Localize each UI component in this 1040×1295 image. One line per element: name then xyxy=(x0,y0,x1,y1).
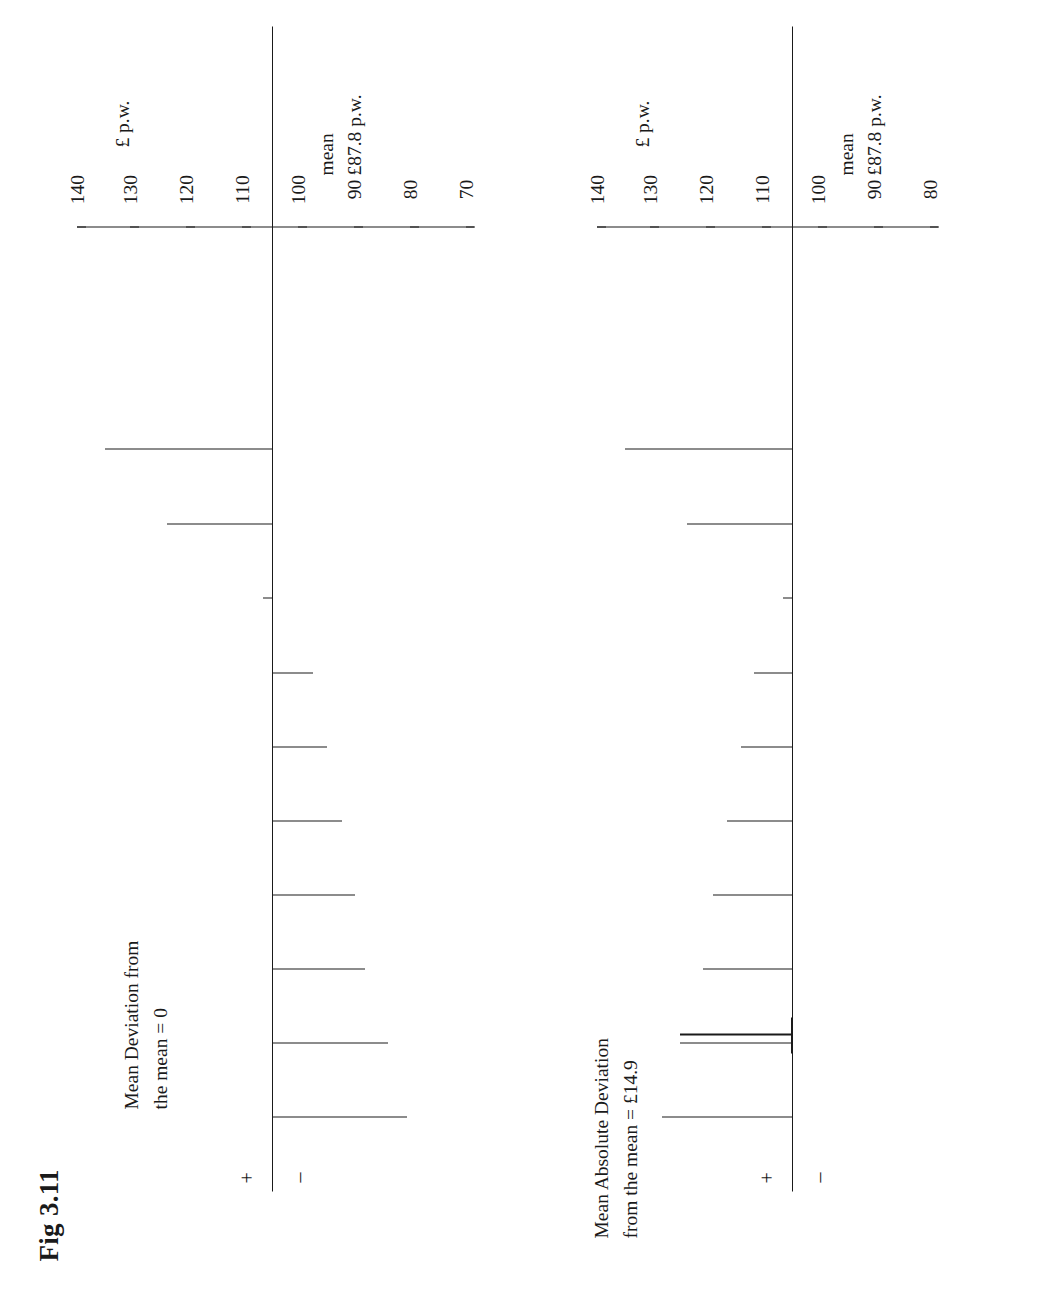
chart-mean-deviation-spike-neg-6 xyxy=(273,746,327,747)
chart-mean-absolute-deviation-spike-1 xyxy=(662,1116,793,1117)
chart-mean-deviation-tick-110 xyxy=(242,226,251,227)
chart-mean-absolute-deviation-caption-line1: Mean Absolute Deviation xyxy=(587,1038,616,1238)
chart-mean-absolute-deviation-spike-7 xyxy=(754,672,793,673)
chart-mean-absolute-deviation-axis-title: £ p.w. xyxy=(633,100,653,147)
chart-mean-deviation-ticklabel-130: 130 xyxy=(121,167,141,211)
chart-mean-absolute-deviation-tick-130 xyxy=(650,226,659,227)
chart-mean-deviation-ticklabel-120: 120 xyxy=(177,167,197,211)
chart-mean-deviation-spike-neg-1 xyxy=(273,1116,407,1117)
chart-mean-absolute-deviation-tick-120 xyxy=(706,226,715,227)
mad-indicator-stem xyxy=(680,1033,792,1035)
chart-mean-deviation-caption-line2: the mean = 0 xyxy=(146,1008,175,1109)
chart-mean-absolute-deviation-ticklabel-80: 80 xyxy=(921,167,941,211)
chart-mean-absolute-deviation-ticklabel-120: 120 xyxy=(697,167,717,211)
chart-mean-absolute-deviation-ticklabel-100: 100 xyxy=(809,167,829,211)
chart-mean-deviation-spike-neg-7 xyxy=(273,672,313,673)
chart-mean-deviation-axis-title: £ p.w. xyxy=(113,100,133,147)
chart-mean-deviation-mean-annotation-line1: mean xyxy=(313,94,341,175)
chart-mean-absolute-deviation-spike-8 xyxy=(783,597,793,598)
chart-mean-absolute-deviation-caption-line2: from the mean = £14.9 xyxy=(616,1060,645,1238)
chart-mean-absolute-deviation-tick-90 xyxy=(874,226,883,227)
chart-mean-deviation-mean-line xyxy=(272,26,273,1191)
chart-mean-deviation-tick-90 xyxy=(354,226,363,227)
chart-mean-deviation-ticklabel-140: 140 xyxy=(68,167,88,211)
chart-mean-deviation-ticklabel-110: 110 xyxy=(233,167,253,211)
chart-mean-absolute-deviation-ticklabel-110: 110 xyxy=(753,167,773,211)
chart-mean-absolute-deviation-spike-10 xyxy=(625,448,793,449)
chart-mean-absolute-deviation-minus-sign: – xyxy=(809,1172,829,1182)
chart-mean-absolute-deviation-mean-line xyxy=(792,26,793,1191)
chart-mean-deviation-spike-neg-5 xyxy=(273,820,342,821)
chart-mean-deviation-tick-100 xyxy=(298,226,307,227)
chart-mean-deviation-ticklabel-70: 70 xyxy=(457,167,477,211)
chart-mean-absolute-deviation-tick-80 xyxy=(930,226,939,227)
chart-mean-absolute-deviation-spike-4 xyxy=(713,894,793,895)
chart-mean-absolute-deviation-mean-annotation-line1: mean xyxy=(833,94,861,175)
chart-mean-deviation-tick-130 xyxy=(130,226,139,227)
chart-mean-deviation-caption-line1: Mean Deviation from xyxy=(117,940,146,1109)
chart-mean-absolute-deviation-mean-annotation: mean £87.8 p.w. xyxy=(833,94,890,175)
mad-indicator xyxy=(680,969,810,1149)
chart-mean-absolute-deviation-spike-5 xyxy=(727,820,793,821)
rotated-figure-canvas: Fig 3.11 Mean Deviation from the mean = … xyxy=(0,0,1040,1295)
chart-mean-deviation: Mean Deviation from the mean = 0 + – 70 … xyxy=(0,0,520,1295)
chart-mean-deviation-ticklabel-100: 100 xyxy=(289,167,309,211)
chart-mean-absolute-deviation-plus-sign: + xyxy=(757,1172,777,1183)
chart-mean-absolute-deviation-ticklabel-140: 140 xyxy=(588,167,608,211)
chart-mean-absolute-deviation-tick-100 xyxy=(818,226,827,227)
chart-mean-deviation-mean-annotation: mean £87.8 p.w. xyxy=(313,94,370,175)
chart-mean-deviation-spike-pos-3 xyxy=(105,448,273,449)
chart-mean-deviation-tick-140 xyxy=(77,226,86,227)
chart-mean-deviation-spike-neg-4 xyxy=(273,894,355,895)
chart-mean-deviation-tick-70 xyxy=(466,226,475,227)
chart-mean-deviation-mean-annotation-line2: £87.8 p.w. xyxy=(341,94,369,175)
chart-mean-deviation-spike-neg-2 xyxy=(273,1042,388,1043)
chart-mean-absolute-deviation-spike-3 xyxy=(703,968,793,969)
chart-mean-deviation-spike-neg-3 xyxy=(273,968,365,969)
chart-mean-absolute-deviation-tick-110 xyxy=(762,226,771,227)
chart-mean-deviation-spike-pos-1 xyxy=(263,597,273,598)
chart-mean-absolute-deviation-mean-annotation-line2: £87.8 p.w. xyxy=(861,94,889,175)
chart-mean-absolute-deviation-tick-140 xyxy=(597,226,606,227)
chart-mean-deviation-minus-sign: – xyxy=(289,1172,309,1182)
chart-mean-deviation-ticklabel-80: 80 xyxy=(401,167,421,211)
chart-mean-deviation-tick-120 xyxy=(186,226,195,227)
chart-mean-absolute-deviation-spike-6 xyxy=(741,746,793,747)
chart-mean-absolute-deviation-spike-9 xyxy=(687,523,793,524)
chart-mean-deviation-spike-pos-2 xyxy=(167,523,273,524)
chart-mean-absolute-deviation: Mean Absolute Deviation from the mean = … xyxy=(520,0,1040,1295)
chart-mean-deviation-plus-sign: + xyxy=(237,1172,257,1183)
chart-mean-absolute-deviation-spike-2 xyxy=(680,1042,793,1043)
chart-mean-absolute-deviation-ticklabel-130: 130 xyxy=(641,167,661,211)
chart-mean-deviation-tick-80 xyxy=(410,226,419,227)
